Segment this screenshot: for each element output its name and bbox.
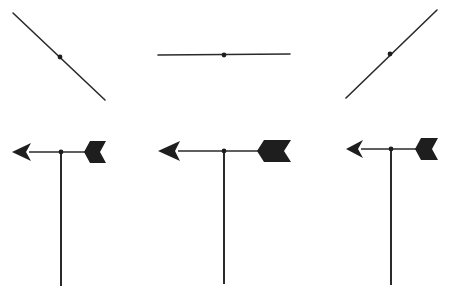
pivot-dot (389, 147, 394, 152)
vane-3 (346, 138, 438, 285)
weather-vanes (12, 138, 438, 286)
arrowhead-icon (346, 140, 363, 158)
vane-1 (12, 141, 106, 286)
pivot-dot (222, 53, 227, 58)
top-view-lines (13, 10, 437, 100)
arrowhead-icon (158, 141, 180, 161)
top-view-2 (158, 53, 290, 58)
pivot-dot (222, 149, 227, 154)
tail-feather-icon (84, 141, 106, 163)
top-view-3 (346, 10, 437, 98)
tail-feather-icon (415, 138, 438, 160)
pivot-dot (388, 52, 393, 57)
vane-2 (158, 140, 291, 284)
pivot-dot (59, 150, 64, 155)
arrowhead-icon (12, 143, 31, 161)
pivot-dot (58, 55, 63, 60)
tail-feather-icon (257, 140, 291, 162)
top-view-1 (13, 13, 105, 100)
weather-vane-diagram (0, 0, 452, 296)
